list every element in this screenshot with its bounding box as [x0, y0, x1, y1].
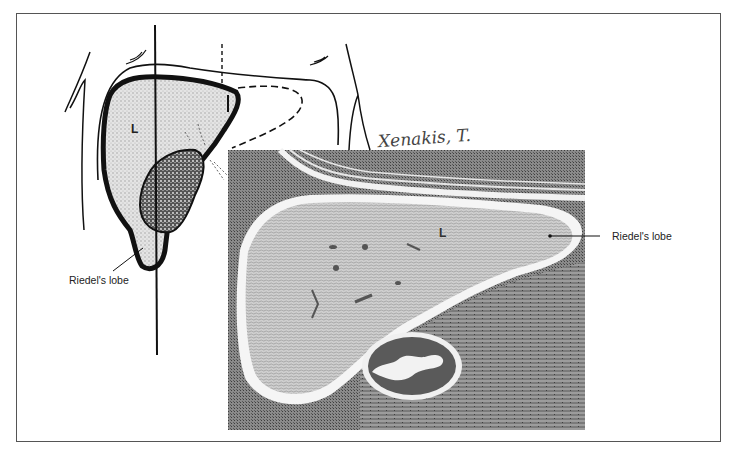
- illustration-canvas: [0, 0, 730, 450]
- nipple-left: [126, 50, 146, 64]
- body-outline-right: [346, 44, 370, 150]
- liver-letter-ct: L: [439, 226, 446, 240]
- body-outline-left: [65, 52, 90, 230]
- liver-letter-drawing: L: [131, 122, 138, 136]
- ct-scan-panel: [228, 150, 600, 430]
- riedels-lobe-label-left: Riedel's lobe: [69, 274, 129, 286]
- left-lobe-dashed: [232, 86, 302, 148]
- nipple-right: [310, 56, 328, 65]
- riedels-lobe-label-right: Riedel's lobe: [612, 230, 672, 242]
